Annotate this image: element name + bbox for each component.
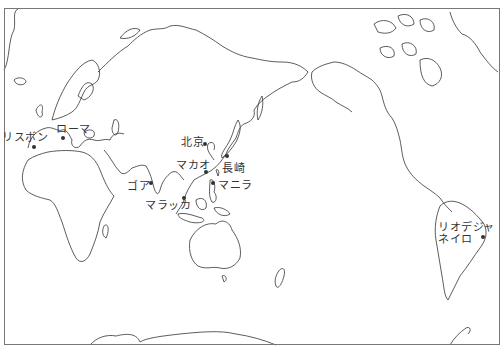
city-dot-manila xyxy=(211,181,215,185)
city-label-macao: マカオ xyxy=(176,160,211,172)
city-label-rio: リオデジャネイロ xyxy=(438,222,495,246)
city-dot-nagasaki xyxy=(225,154,229,158)
city-label-rome: ローマ xyxy=(56,124,91,136)
city-label-nagasaki: 長崎 xyxy=(222,163,245,175)
city-label-goa: ゴア xyxy=(127,181,150,193)
city-dot-rome xyxy=(61,136,65,140)
city-label-line2: ネイロ xyxy=(438,233,473,246)
city-label-malacca: マラッカ xyxy=(145,200,191,212)
city-label-beijing: 北京 xyxy=(181,137,204,149)
city-label-manila: マニラ xyxy=(218,180,253,192)
city-label-lisbon: リスボン xyxy=(2,132,48,144)
city-dot-lisbon xyxy=(32,145,36,149)
map-frame xyxy=(4,8,500,345)
